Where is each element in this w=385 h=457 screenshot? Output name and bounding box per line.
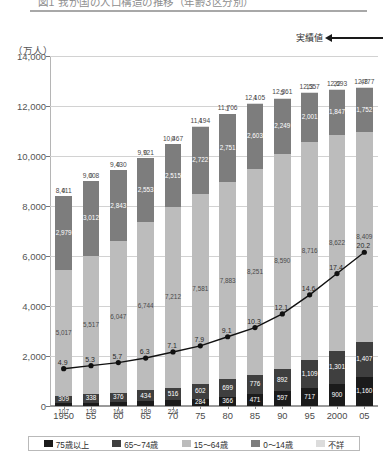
bar-total-label: 12,693 (327, 80, 347, 87)
page-title: 図1 我が国の人口構造の推移（年齢3区分別） (38, 0, 358, 9)
legend-item-p1564[interactable]: 15～64歳 (182, 438, 228, 450)
bar-segment-p6574[interactable]: 892 (274, 369, 290, 391)
x-axis-tick (146, 406, 147, 409)
x-axis-tick-label: 90 (277, 411, 287, 421)
bar-segment-p6574[interactable]: 309 (55, 396, 71, 404)
bar-group[interactable]: 2846027,5812,7224 (192, 126, 208, 406)
bar-segment-p014[interactable]: 2,553 (137, 158, 153, 222)
bar-segment-p014[interactable]: 2,843 (110, 170, 126, 241)
y-axis-tick (46, 156, 50, 157)
x-axis-tick (200, 406, 201, 409)
bar-segment-p014[interactable]: 2,979 (55, 196, 71, 270)
bar-segment-p6574[interactable]: 1,301 (329, 351, 345, 384)
bar-segment-p1564[interactable]: 7,581 (192, 194, 208, 384)
x-axis-tick (228, 406, 229, 409)
bar-segment-p014[interactable]: 2,001 (301, 92, 317, 142)
bar-segment-value: 892 (277, 377, 288, 383)
x-axis-tick (64, 406, 65, 409)
bar-segment-p1564[interactable]: 8,251 (247, 169, 263, 375)
bar-segment-p6574[interactable]: 602 (192, 384, 208, 399)
bar-segment-value: 1,847 (329, 109, 345, 115)
bar-segment-p75[interactable]: 717 (301, 388, 317, 406)
bar-segment-p014[interactable]: 3,012 (83, 181, 99, 256)
bar-segment-p1564[interactable]: 7,883 (219, 182, 235, 379)
legend-item-unknown[interactable]: 不詳 (316, 438, 344, 450)
bar-segment-p014[interactable]: 2,722 (192, 126, 208, 194)
bar-segment-p1564[interactable]: 6,047 (110, 241, 126, 392)
bar-segment-p6574[interactable]: 1,407 (356, 342, 372, 377)
bar-segment-value: 8,251 (247, 269, 263, 275)
bar-segment-p1564[interactable]: 6,744 (137, 222, 153, 391)
bar-segment-p1564[interactable]: 8,622 (329, 135, 345, 351)
legend-swatch-unknown (316, 440, 325, 447)
bar-segment-value: 8,409 (356, 234, 372, 240)
bar-segment-p014[interactable]: 1,752 (356, 88, 372, 132)
bar-segment-p75[interactable]: 366 (219, 397, 235, 406)
bar-segment-p75[interactable]: 900 (329, 384, 345, 407)
x-axis-tick-label: 05 (359, 411, 369, 421)
bar-segment-p1564[interactable]: 8,409 (356, 132, 372, 342)
bar-total-label: 9,008 (83, 172, 100, 179)
bar-segment-p75[interactable]: 597 (274, 391, 290, 406)
bar-segment-value: 434 (140, 393, 151, 399)
legend-item-p014[interactable]: 0～14歳 (251, 438, 293, 450)
bar-group[interactable]: 4717768,2512,6034 (247, 103, 263, 406)
legend-item-p75[interactable]: 75歳以上 (44, 438, 89, 450)
line-value-label: 20.2 (357, 242, 371, 249)
bar-group[interactable]: 1393385,5173,0120 (83, 181, 99, 406)
bar-segment-p6574[interactable]: 376 (110, 393, 126, 402)
bar-segment-p75[interactable]: 284 (192, 399, 208, 406)
bar-segment-p014[interactable]: 2,249 (274, 98, 290, 154)
bar-segment-p014[interactable]: 2,751 (219, 114, 235, 183)
actual-values-annotation: 実績値 (296, 31, 323, 44)
x-axis-tick (282, 406, 283, 409)
bar-group[interactable]: 9001,3018,6221,84722 (329, 89, 345, 406)
bar-segment-value: 1,752 (356, 107, 372, 113)
bar-segment-p1564[interactable]: 5,017 (55, 270, 71, 395)
bar-total-label: 11,706 (218, 104, 238, 111)
bar-segment-p6574[interactable]: 699 (219, 379, 235, 396)
bar-segment-p1564[interactable]: 7,212 (165, 207, 181, 387)
bar-segment-p014[interactable]: 2,603 (247, 104, 263, 169)
legend-swatch-p75 (44, 440, 53, 447)
bar-group[interactable]: 7171,1098,7162,00113 (301, 92, 317, 406)
bar-segment-p6574[interactable]: 1,109 (301, 360, 317, 388)
bar-group[interactable]: 1894346,7442,5530 (137, 158, 153, 406)
bar-segment-p6574[interactable]: 776 (247, 375, 263, 394)
legend-item-p6574[interactable]: 65～74歳 (112, 438, 158, 450)
bar-segment-value: 2,603 (247, 133, 263, 139)
y-axis-tick-label: 0 (41, 401, 46, 412)
bar-segment-value: 7,581 (192, 286, 208, 292)
bar-group[interactable]: 5978928,5902,2495 (274, 97, 290, 406)
bar-group[interactable]: 2245167,2122,5150 (165, 144, 181, 406)
bar-segment-p75[interactable]: 471 (247, 394, 263, 406)
y-axis-tick (46, 106, 50, 107)
bar-total-label: 11,194 (190, 117, 210, 124)
bar-segment-p1564[interactable]: 8,716 (301, 142, 317, 360)
bar-segment-p6574[interactable]: 338 (83, 394, 99, 402)
y-axis-tick-label: 4,000 (22, 301, 46, 312)
bar-segment-value: 8,590 (274, 258, 290, 264)
legend-swatch-p1564 (182, 440, 191, 447)
legend-swatch-p6574 (112, 440, 121, 447)
bar-segment-unknown[interactable]: 48 (356, 87, 372, 88)
bar-segment-value: 900 (332, 392, 343, 398)
bar-segment-value: 376 (113, 394, 124, 400)
y-axis-line (50, 56, 51, 406)
bar-segment-p1564[interactable]: 8,590 (274, 154, 290, 369)
bar-group[interactable]: 1073095,0172,9790 (55, 196, 71, 406)
bar-segment-unknown[interactable]: 22 (329, 89, 345, 90)
bar-segment-p75[interactable]: 1,160 (356, 377, 372, 406)
y-axis-tick-label: 6,000 (22, 251, 46, 262)
bar-segment-p1564[interactable]: 5,517 (83, 256, 99, 394)
line-value-label: 5.3 (85, 356, 95, 363)
bar-segment-p6574[interactable]: 434 (137, 390, 153, 401)
y-axis-tick-label: 10,000 (17, 151, 46, 162)
y-axis-tick-label: 2,000 (22, 351, 46, 362)
bar-group[interactable]: 3666997,8832,7511 (219, 113, 235, 406)
bar-segment-p014[interactable]: 1,847 (329, 89, 345, 135)
bar-segment-p014[interactable]: 2,515 (165, 144, 181, 207)
bar-group[interactable]: 1643766,0472,8430 (110, 170, 126, 406)
bar-segment-p6574[interactable]: 516 (165, 388, 181, 401)
y-axis-tick-label: 14,000 (17, 51, 46, 62)
